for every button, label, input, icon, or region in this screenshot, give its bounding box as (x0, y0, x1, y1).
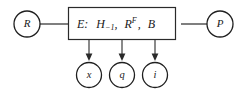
arrow-head-i (152, 54, 159, 62)
expr-r-superscript: F (131, 15, 137, 24)
diagram-canvas: E: H−1, RF, B R P x q i (0, 0, 247, 91)
node-label-output-i: i (154, 69, 157, 80)
expr-comma-1: , (114, 16, 117, 30)
expr-b-base: B (148, 16, 156, 30)
node-label-right: P (216, 17, 224, 29)
expr-e-label: E: (76, 16, 88, 30)
diagram-svg: E: H−1, RF, B R P x q i (0, 0, 247, 91)
arrow-head-q (119, 54, 126, 62)
node-label-left: R (23, 17, 31, 29)
expr-comma-2: , (138, 16, 141, 30)
arrow-head-x (86, 54, 93, 62)
node-label-output-x: x (86, 69, 92, 80)
expr-h-subscript: −1 (105, 22, 114, 31)
node-label-output-q: q (119, 69, 124, 80)
